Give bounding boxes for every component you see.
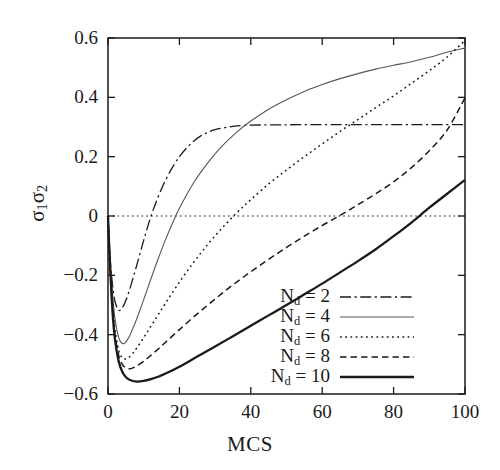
y-tick-label: 0.6 <box>30 28 98 47</box>
legend-item: Nd = 6 <box>236 327 426 347</box>
y-tick-label: 0.2 <box>30 147 98 166</box>
x-tick-label: 40 <box>221 402 281 421</box>
x-axis-title: MCS <box>0 432 500 457</box>
legend-line-sample <box>338 350 416 364</box>
legend-item: Nd = 10 <box>236 367 426 387</box>
x-tick-label: 60 <box>292 402 352 421</box>
legend-item: Nd = 2 <box>236 287 426 307</box>
legend-line-sample <box>338 330 416 344</box>
legend-line-sample <box>338 290 416 304</box>
chart-figure: 0.60.40.20−0.2−0.4−0.6 020406080100 σ1σ2… <box>0 0 500 470</box>
legend-line-sample <box>338 370 416 384</box>
y-tick-label: −0.6 <box>30 384 98 403</box>
chart-legend: Nd = 2Nd = 4Nd = 6Nd = 8Nd = 10 <box>236 287 426 387</box>
legend-line-sample <box>338 310 416 324</box>
series-line-1 <box>108 125 465 311</box>
x-tick-label: 0 <box>78 402 138 421</box>
y-tick-label: −0.2 <box>30 265 98 284</box>
y-axis-title: σ1σ2 <box>25 173 52 233</box>
legend-item: Nd = 4 <box>236 307 426 327</box>
y-tick-label: −0.4 <box>30 325 98 344</box>
x-tick-label: 100 <box>435 402 495 421</box>
legend-item: Nd = 8 <box>236 347 426 367</box>
y-tick-label: 0.4 <box>30 87 98 106</box>
x-tick-label: 80 <box>364 402 424 421</box>
legend-label: Nd = 10 <box>236 366 338 387</box>
x-tick-label: 20 <box>149 402 209 421</box>
